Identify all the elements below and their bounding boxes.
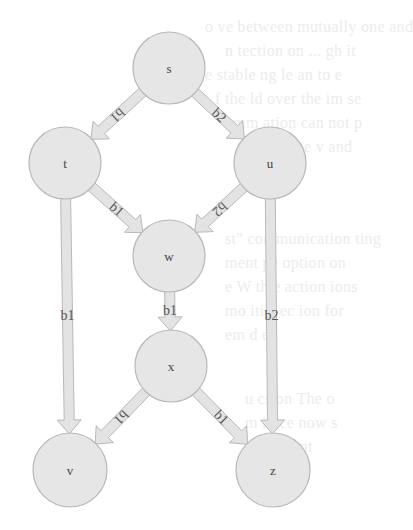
node-label: z: [270, 463, 276, 478]
edge-u-to-z: b2: [261, 197, 285, 434]
edge-w-to-x: b1: [158, 290, 182, 331]
edge-s-to-u: b2: [190, 88, 244, 139]
node-s: s: [133, 32, 205, 104]
edge-x-to-v: b1: [95, 387, 151, 444]
node-label: w: [164, 249, 174, 264]
node-x: x: [135, 330, 207, 402]
edge-label: b2: [265, 308, 279, 323]
node-label: s: [166, 61, 171, 76]
edge-s-to-t: b1: [91, 87, 148, 139]
node-label: t: [63, 156, 67, 171]
node-t: t: [29, 127, 101, 199]
node-w: w: [133, 220, 205, 292]
edge-t-to-w: b1: [87, 182, 143, 233]
edge-u-to-w: b2: [195, 182, 249, 232]
node-label: x: [168, 359, 175, 374]
node-z: z: [236, 433, 310, 507]
edge-t-to-v: b1: [57, 197, 81, 434]
node-v: v: [33, 433, 107, 507]
node-label: v: [67, 463, 74, 478]
node-label: u: [267, 156, 274, 171]
edge-label: b1: [163, 303, 177, 318]
node-u: u: [234, 127, 306, 199]
edge-x-to-z: b1: [191, 387, 248, 445]
edge-label: b1: [61, 308, 75, 323]
